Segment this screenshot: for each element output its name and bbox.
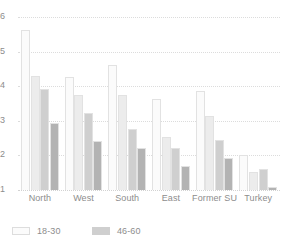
y-tick-label-2: 2 bbox=[0, 150, 14, 159]
plot-area bbox=[18, 17, 280, 190]
bar-turkey-61+[interactable] bbox=[268, 187, 277, 190]
x-label-south: South bbox=[115, 193, 139, 204]
bar-turkey-46-60[interactable] bbox=[259, 169, 268, 190]
bar-south-31-45[interactable] bbox=[118, 95, 127, 190]
bar-west-31-45[interactable] bbox=[74, 95, 83, 190]
bar-group-east bbox=[152, 17, 190, 190]
bar-east-18-30[interactable] bbox=[152, 99, 161, 190]
bar-former-su-18-30[interactable] bbox=[196, 91, 205, 190]
bar-east-31-45[interactable] bbox=[162, 137, 171, 190]
bar-former-su-61+[interactable] bbox=[224, 158, 233, 190]
chart-legend: 18-3046-60 bbox=[0, 224, 284, 242]
x-axis-category-labels: NorthWestSouthEastFormer SUTurkey bbox=[18, 193, 280, 207]
bar-group-turkey bbox=[239, 17, 277, 190]
x-label-turkey: Turkey bbox=[244, 193, 272, 204]
y-tick-label-4: 4 bbox=[0, 81, 14, 90]
x-label-west: West bbox=[73, 193, 94, 204]
bar-east-61+[interactable] bbox=[181, 166, 190, 190]
legend-label-18-30: 18-30 bbox=[37, 226, 61, 236]
bar-group-former-su bbox=[196, 17, 234, 190]
bar-east-46-60[interactable] bbox=[171, 148, 180, 190]
bar-north-31-45[interactable] bbox=[31, 76, 40, 190]
bar-groups bbox=[18, 17, 280, 190]
bar-west-61+[interactable] bbox=[93, 141, 102, 190]
y-tick-label-3: 3 bbox=[0, 116, 14, 125]
bar-south-46-60[interactable] bbox=[128, 129, 137, 190]
legend-swatch-18-30 bbox=[12, 227, 30, 235]
x-label-former-su: Former SU bbox=[192, 193, 237, 204]
bar-south-61+[interactable] bbox=[137, 148, 146, 190]
y-tick-label-5: 5 bbox=[0, 47, 14, 56]
bar-group-north bbox=[21, 17, 59, 190]
bar-north-46-60[interactable] bbox=[40, 89, 49, 190]
bar-former-su-31-45[interactable] bbox=[205, 116, 214, 190]
bar-former-su-46-60[interactable] bbox=[215, 140, 224, 190]
y-tick-label-1: 1 bbox=[0, 185, 14, 194]
bar-north-61+[interactable] bbox=[50, 123, 59, 190]
bar-group-west bbox=[65, 17, 103, 190]
bar-north-18-30[interactable] bbox=[21, 30, 30, 190]
legend-swatch-46-60 bbox=[92, 227, 110, 235]
legend-item-18-30[interactable]: 18-30 bbox=[12, 224, 61, 238]
bar-chart: 123456 NorthWestSouthEastFormer SUTurkey… bbox=[0, 0, 284, 245]
legend-item-46-60[interactable]: 46-60 bbox=[92, 224, 141, 238]
bar-turkey-31-45[interactable] bbox=[249, 172, 258, 190]
bar-turkey-18-30[interactable] bbox=[239, 155, 248, 190]
x-label-north: North bbox=[29, 193, 52, 204]
bar-west-46-60[interactable] bbox=[84, 113, 93, 190]
bar-group-south bbox=[108, 17, 146, 190]
x-label-east: East bbox=[162, 193, 180, 204]
y-tick-label-6: 6 bbox=[0, 12, 14, 21]
bar-south-18-30[interactable] bbox=[108, 65, 117, 190]
legend-label-46-60: 46-60 bbox=[117, 226, 141, 236]
bar-west-18-30[interactable] bbox=[65, 77, 74, 190]
gridline-1 bbox=[18, 190, 280, 191]
